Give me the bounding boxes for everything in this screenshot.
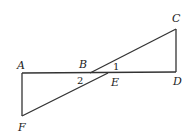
angle-1-label: 1 <box>113 61 119 72</box>
label-D: D <box>172 75 182 88</box>
segment-AD <box>22 72 176 73</box>
geometry-diagram: A B C D E F 1 2 <box>0 0 188 136</box>
segment-FE <box>22 73 108 116</box>
label-A: A <box>16 59 25 72</box>
label-B: B <box>78 58 87 71</box>
angle-2-label: 2 <box>77 75 83 86</box>
label-C: C <box>172 12 181 25</box>
label-F: F <box>17 121 26 134</box>
label-E: E <box>110 76 119 89</box>
segment-CB <box>90 29 176 73</box>
